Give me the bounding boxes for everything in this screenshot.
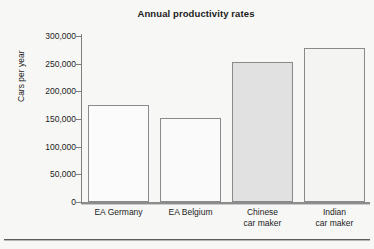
y-axis-tick-mark — [76, 147, 82, 148]
y-axis-tick-mark — [76, 64, 82, 65]
x-axis-tick-label-line: Indian — [323, 207, 346, 217]
x-axis-tick-label-line: EA Belgium — [169, 207, 213, 217]
bar[interactable] — [160, 118, 221, 202]
y-axis-tick-mark — [76, 36, 82, 37]
x-axis-tick-label: Chinesecar maker — [222, 207, 303, 229]
x-axis-tick-label-line: Chinese — [247, 207, 278, 217]
y-axis-tick-mark — [76, 174, 82, 175]
y-axis-tick-mark — [76, 202, 82, 203]
x-axis-tick-label: Indiancar maker — [294, 207, 374, 229]
y-axis-tick-mark — [76, 91, 82, 92]
chart-figure: Annual productivity rates Cars per year … — [0, 0, 374, 249]
y-axis-tick-mark — [76, 119, 82, 120]
page-divider-rule-shadow — [4, 240, 370, 241]
x-axis-tick-label: EA Germany — [78, 207, 159, 218]
x-axis-tick-label-line: EA Germany — [94, 207, 142, 217]
x-axis-tick-labels: EA GermanyEA BelgiumChinesecar makerIndi… — [0, 207, 374, 243]
x-axis-tick-label-line: car maker — [222, 218, 303, 229]
bar[interactable] — [88, 105, 149, 202]
x-axis-tick-label-line: car maker — [294, 218, 374, 229]
x-axis-tick-label: EA Belgium — [150, 207, 231, 218]
bar[interactable] — [304, 48, 365, 202]
bar[interactable] — [232, 62, 293, 202]
plot-area: Cars per year 050,000100,000150,000200,0… — [0, 0, 374, 249]
